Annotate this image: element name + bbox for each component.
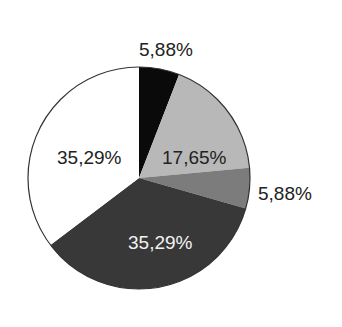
- pie-slices: [28, 67, 250, 289]
- pie-chart: 5,88% 17,65% 5,88% 35,29% 35,29%: [0, 0, 342, 327]
- slice-label-mid-gray: 5,88%: [258, 183, 312, 204]
- slice-label-light-gray: 17,65%: [162, 147, 227, 168]
- slice-label-white: 35,29%: [57, 147, 122, 168]
- slice-label-dark-gray: 35,29%: [128, 232, 193, 253]
- slice-label-black: 5,88%: [139, 39, 193, 60]
